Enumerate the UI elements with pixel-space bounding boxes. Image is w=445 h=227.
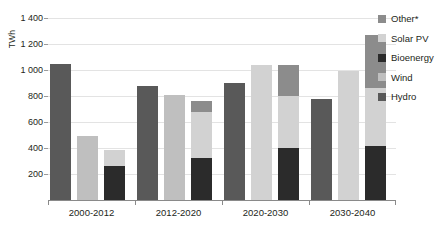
legend-item-wind[interactable]: Wind xyxy=(378,72,434,83)
y-tick-mark xyxy=(44,18,48,19)
legend-label: Bioenergy xyxy=(391,52,434,63)
legend-swatch-icon xyxy=(378,15,386,23)
y-tick-label: 200 xyxy=(28,169,43,179)
bar-segment-hydro xyxy=(50,64,71,201)
bar xyxy=(137,86,158,200)
x-tick-mark xyxy=(222,201,223,205)
bar-segment-wind xyxy=(77,136,98,200)
bar-segment-hydro xyxy=(224,83,245,200)
x-tick-label: 2012-2020 xyxy=(156,207,201,218)
y-tick-label: 1 400 xyxy=(20,13,43,23)
y-tick-mark xyxy=(44,148,48,149)
plot-area: 2004006008001 0001 2001 400 xyxy=(48,18,396,201)
y-axis-label: TWh xyxy=(7,19,17,59)
legend-swatch-icon xyxy=(378,54,386,62)
bar xyxy=(278,65,299,200)
bar-segment-bioenergy xyxy=(191,158,212,200)
x-tick-mark xyxy=(395,201,396,205)
chart-container: TWh 2004006008001 0001 2001 400 2000-201… xyxy=(0,0,445,227)
legend-item-hydro[interactable]: Hydro xyxy=(378,91,434,102)
x-tick-mark xyxy=(48,201,49,205)
bar-segment-bioenergy xyxy=(278,148,299,200)
legend-label: Solar PV xyxy=(391,33,429,44)
chart-legend: Other*Solar PVBioenergyWindHydro xyxy=(378,13,434,102)
legend-swatch-icon xyxy=(378,93,386,101)
bar-segment-solarpv xyxy=(338,71,359,200)
y-tick-label: 600 xyxy=(28,117,43,127)
y-tick-label: 1 200 xyxy=(20,39,43,49)
bar-segment-solarpv xyxy=(104,150,125,166)
legend-item-other[interactable]: Other* xyxy=(378,13,434,24)
legend-swatch-icon xyxy=(378,73,386,81)
y-tick-mark xyxy=(44,174,48,175)
bar-segment-bioenergy xyxy=(365,146,386,200)
bar xyxy=(311,99,332,200)
bar-segment-wind xyxy=(164,95,185,200)
bar-segment-hydro xyxy=(137,86,158,200)
bar xyxy=(164,95,185,200)
x-tick-label: 2030-2040 xyxy=(330,207,375,218)
bar xyxy=(77,136,98,200)
bar-segment-solarpv xyxy=(251,65,272,200)
gridline xyxy=(48,44,396,45)
bar-segment-hydro xyxy=(311,99,332,200)
gridline xyxy=(48,18,396,19)
bar xyxy=(104,150,125,200)
legend-label: Hydro xyxy=(391,91,416,102)
bar xyxy=(338,71,359,200)
bar-segment-bioenergy xyxy=(104,166,125,200)
bar xyxy=(191,101,212,200)
bar-segment-other xyxy=(278,65,299,96)
y-tick-mark xyxy=(44,44,48,45)
y-tick-mark xyxy=(44,70,48,71)
x-axis: 2000-20122012-20202020-20302030-2040 xyxy=(48,201,396,227)
x-tick-mark xyxy=(135,201,136,205)
legend-item-bioenergy[interactable]: Bioenergy xyxy=(378,52,434,63)
x-tick-label: 2000-2012 xyxy=(69,207,114,218)
y-tick-label: 800 xyxy=(28,91,43,101)
y-tick-mark xyxy=(44,96,48,97)
y-tick-mark xyxy=(44,122,48,123)
bar-segment-solarpv xyxy=(191,112,212,159)
x-tick-mark xyxy=(309,201,310,205)
y-tick-label: 400 xyxy=(28,143,43,153)
legend-item-solarpv[interactable]: Solar PV xyxy=(378,33,434,44)
bar xyxy=(251,65,272,200)
x-tick-label: 2020-2030 xyxy=(243,207,288,218)
bar-segment-other xyxy=(191,101,212,111)
bar xyxy=(50,64,71,201)
bar-segment-solarpv xyxy=(278,96,299,148)
y-tick-label: 1 000 xyxy=(20,65,43,75)
legend-label: Wind xyxy=(391,72,413,83)
bar xyxy=(224,83,245,200)
legend-label: Other* xyxy=(391,13,418,24)
legend-swatch-icon xyxy=(378,34,386,42)
